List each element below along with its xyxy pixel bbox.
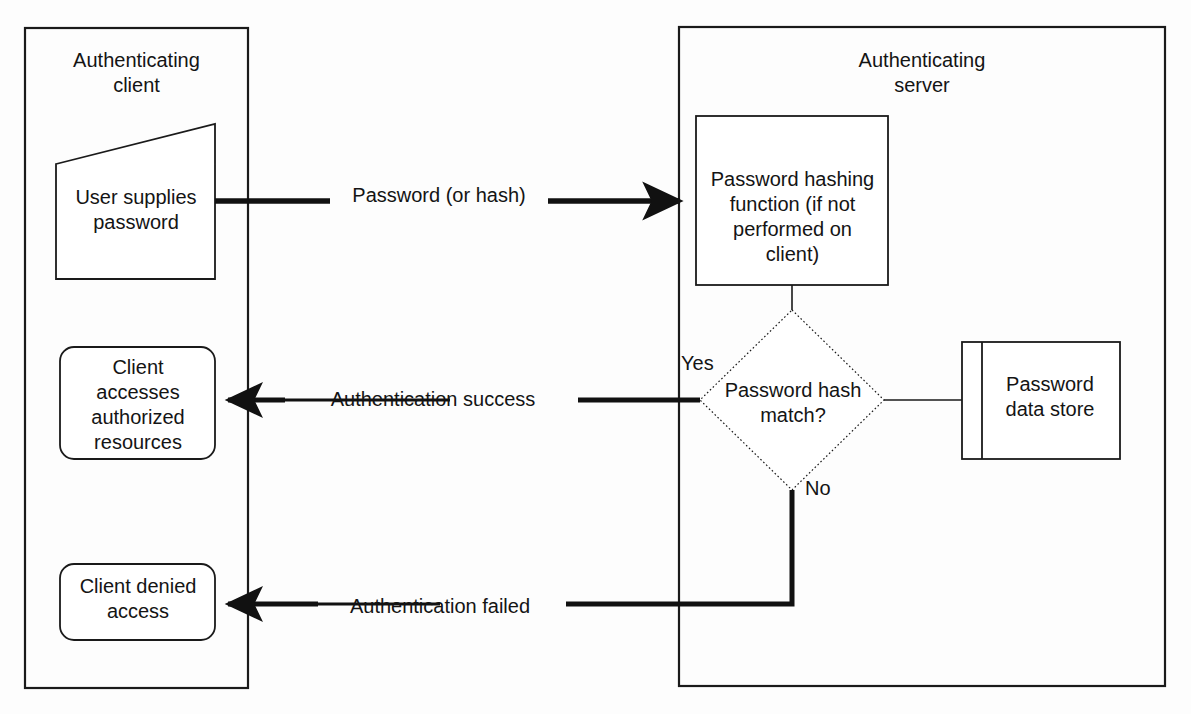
node-password-hashing-function-shape	[696, 116, 888, 285]
node-password-hash-match-shape	[700, 310, 884, 490]
node-password-data-store-shape	[962, 342, 1120, 459]
node-client-accesses-resources-shape	[60, 347, 215, 459]
node-user-supplies-password-shape	[56, 124, 215, 279]
diagram-vector-layer	[0, 0, 1191, 714]
diagram-canvas: Authenticating client Authenticating ser…	[0, 0, 1191, 714]
node-client-denied-access-shape	[60, 564, 215, 640]
edge-authentication-failed	[228, 490, 792, 604]
